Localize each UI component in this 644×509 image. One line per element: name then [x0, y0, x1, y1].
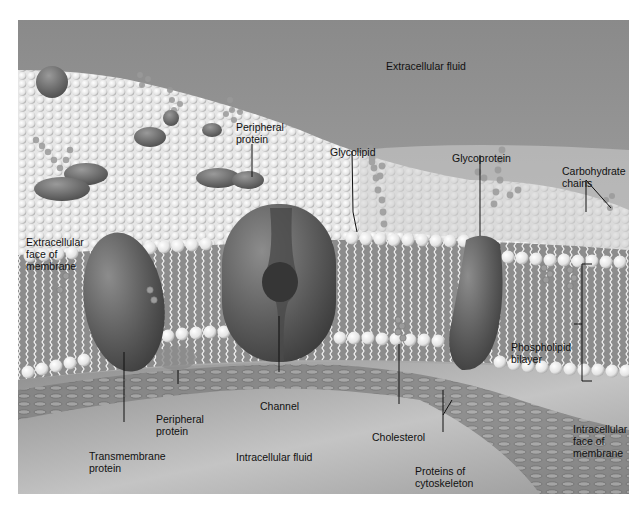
label-glycolipid: Glycolipid — [330, 122, 376, 170]
label-peripheral-protein-top: Peripheralprotein — [236, 97, 284, 157]
label-glycoprotein: Glycoprotein — [452, 128, 511, 176]
label-extracellular-face: Extracellularface ofmembrane — [26, 212, 84, 284]
inner-peripheral-protein — [156, 346, 196, 370]
label-extracellular-fluid: Extracellular fluid — [386, 60, 466, 72]
label-intracellular-face: Intracellularface ofmembrane — [573, 399, 627, 471]
label-proteins-of-cytoskeleton: Proteins ofcytoskeleton — [415, 441, 473, 501]
label-intracellular-fluid: Intracellular fluid — [236, 451, 312, 463]
label-phospholipid-bilayer: Phospholipidbilayer — [511, 317, 571, 377]
label-channel: Channel — [260, 376, 299, 424]
label-carbohydrate-chains: Carbohydratechains — [562, 141, 626, 201]
label-transmembrane-protein: Transmembraneprotein — [89, 426, 166, 486]
